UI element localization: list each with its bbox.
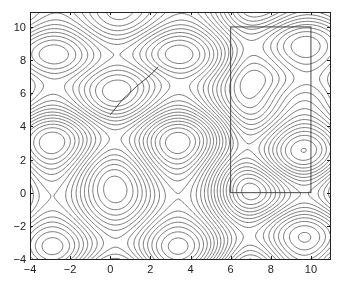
y-tick-label: 0 [2, 187, 26, 198]
x-tick-label: 10 [305, 264, 317, 275]
x-tick-label: 6 [228, 264, 234, 275]
y-tick-label: 6 [2, 88, 26, 99]
x-tick-label: 8 [268, 264, 274, 275]
contour-plot-canvas [0, 0, 345, 289]
x-tick-label: −2 [64, 264, 77, 275]
y-tick-label: 8 [2, 55, 26, 66]
y-tick-label: −4 [2, 254, 26, 265]
x-tick-label: 4 [187, 264, 193, 275]
y-tick-label: 2 [2, 154, 26, 165]
y-tick-label: −2 [2, 220, 26, 231]
y-tick-label: 10 [2, 21, 26, 32]
x-tick-label: 2 [147, 264, 153, 275]
x-tick-label: 0 [107, 264, 113, 275]
contour-plot: −4 −2 0 2 4 6 8 10 −4 −2 0 2 4 6 8 10 [0, 0, 345, 289]
y-tick-label: 4 [2, 121, 26, 132]
x-tick-label: −4 [24, 264, 37, 275]
